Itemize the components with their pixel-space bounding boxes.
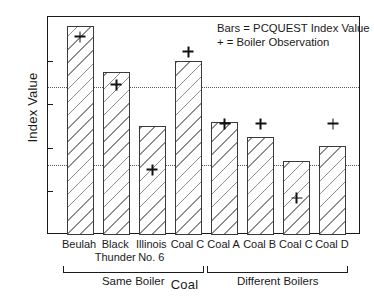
group-bracket [207, 266, 348, 273]
group-bracket-label: Same Boiler [102, 275, 165, 287]
y-axis-tick-mark [48, 61, 53, 62]
x-axis-tick-label: Coal C [171, 238, 205, 251]
bar [67, 26, 94, 235]
legend-entry-observation: + = Boiler Observation [217, 35, 369, 49]
bar [139, 126, 166, 235]
x-axis-tick-label-line: Coal C [171, 238, 205, 251]
x-axis-tick-label: BlackThunder [95, 238, 136, 263]
x-axis-tick-label: Coal C [279, 238, 313, 251]
y-axis-tick-mark [48, 191, 53, 192]
bar [103, 72, 130, 236]
y-axis-tick-mark [48, 104, 53, 105]
observation-marker [219, 118, 230, 129]
group-bracket [63, 266, 204, 273]
x-axis-tick-label-line: Black [95, 238, 136, 251]
y-axis-title: Index Value [25, 38, 40, 178]
x-axis-tick-label: IllinoisNo. 6 [136, 238, 167, 263]
x-axis-tick-label: Coal A [207, 238, 239, 251]
observation-marker [291, 192, 302, 203]
x-axis-tick-label-line: Coal C [279, 238, 313, 251]
observation-marker [327, 118, 338, 129]
legend-entry-bars: Bars = PCQUEST Index Value [217, 21, 369, 35]
x-axis-tick-label-line: Thunder [95, 251, 136, 264]
bar [247, 137, 274, 235]
x-axis-tick-label-line: Coal D [315, 238, 349, 251]
x-axis-tick-label-line: No. 6 [136, 251, 167, 264]
y-axis-tick-mark [48, 148, 53, 149]
legend: Bars = PCQUEST Index Value + = Boiler Ob… [211, 17, 374, 53]
x-axis-tick-label-line: Coal A [207, 238, 239, 251]
x-axis-tick-label: Coal D [315, 238, 349, 251]
bar [175, 61, 202, 235]
reference-line [48, 165, 359, 166]
x-axis-tick-label-line: Beulah [62, 238, 96, 251]
observation-marker [147, 164, 158, 175]
bar [319, 146, 346, 235]
x-axis-tick-label-line: Coal B [243, 238, 276, 251]
x-axis-tick-label-line: Illinois [136, 238, 167, 251]
observation-marker [255, 118, 266, 129]
reference-line [48, 87, 359, 88]
bar [211, 122, 238, 235]
observation-marker [183, 46, 194, 57]
observation-marker [75, 31, 86, 42]
x-axis-tick-label: Beulah [62, 238, 96, 251]
x-axis-tick-label: Coal B [243, 238, 276, 251]
observation-marker [111, 79, 122, 90]
group-bracket-label: Different Boilers [237, 275, 319, 287]
